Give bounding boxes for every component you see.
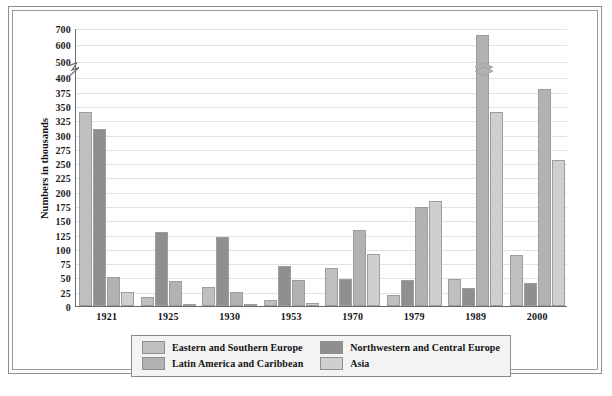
y-axis-tick-label: 25 [61,287,71,298]
legend-item-latin-america-caribbean[interactable]: Latin America and Caribbean [142,357,316,370]
y-axis-title-label: Numbers in thousands [39,118,50,219]
legend-swatch-icon [320,357,343,370]
x-axis-group-label: 1925 [138,311,200,322]
x-axis-group-label: 1989 [445,311,507,322]
legend-item-label: Eastern and Southern Europe [172,342,303,353]
bar-group: 1979 [384,29,446,306]
legend-item-label: Northwestern and Central Europe [350,342,500,353]
bar[interactable] [462,288,475,306]
y-axis-tick-label: 325 [55,116,71,127]
bar[interactable] [216,237,229,306]
bar[interactable] [401,280,414,306]
x-axis-group-label: 2000 [507,311,569,322]
bar[interactable] [169,281,182,306]
bar[interactable] [79,112,92,306]
bar[interactable] [183,304,196,306]
figure-frame-inner: Numbers in thousands 0255075100125150175… [12,10,598,370]
y-axis-tick-label: 400 [55,73,71,84]
x-axis-group-label: 1970 [322,311,384,322]
bar[interactable] [524,283,537,306]
bar[interactable] [476,35,489,306]
x-axis-group-label: 1979 [384,311,446,322]
bar[interactable] [93,129,106,306]
bar[interactable] [429,201,442,306]
legend-item-label: Latin America and Caribbean [172,358,303,369]
bar[interactable] [538,89,551,306]
bar[interactable] [107,277,120,306]
bar[interactable] [244,304,257,306]
y-axis-tick-label: 300 [55,130,71,141]
y-axis-tick-label: 125 [55,230,71,241]
y-axis-tick-label: 250 [55,159,71,170]
x-axis-group-label: 1930 [199,311,261,322]
bar[interactable] [230,292,243,306]
bar[interactable] [121,292,134,306]
bar[interactable] [278,266,291,306]
legend-swatch-icon [142,341,165,354]
plot-area: 0255075100125150175200225250275300325350… [75,29,567,307]
y-axis-tick-label: 275 [55,144,71,155]
bar[interactable] [264,300,277,306]
y-axis-title: Numbers in thousands [37,29,51,307]
y-axis-tick-label: 500 [55,56,71,67]
bar-break-marker [475,62,493,75]
bar[interactable] [155,232,168,306]
bar-group: 1921 [76,29,138,306]
figure-frame: Numbers in thousands 0255075100125150175… [8,6,602,374]
y-axis-tick-label: 175 [55,202,71,213]
bar-group: 1989 [445,29,507,306]
y-axis-tick-label: 75 [61,259,71,270]
bar-group: 1930 [199,29,261,306]
bar-group: 1970 [322,29,384,306]
bar-group: 1925 [138,29,200,306]
y-axis-tick-label: 50 [61,273,71,284]
bar[interactable] [306,303,319,306]
y-axis-tick-label: 225 [55,173,71,184]
bar[interactable] [325,268,338,306]
bar[interactable] [202,287,215,306]
bar[interactable] [141,297,154,306]
bar-group: 2000 [507,29,569,306]
legend-swatch-icon [320,341,343,354]
gridline [76,307,567,308]
y-axis-tick-label: 200 [55,187,71,198]
bar[interactable] [552,160,565,306]
legend-swatch-icon [142,357,165,370]
bar[interactable] [448,279,461,306]
bar[interactable] [490,112,503,306]
legend-item-eastern-southern-europe[interactable]: Eastern and Southern Europe [142,341,316,354]
y-axis-tick-label: 350 [55,102,71,113]
bar[interactable] [415,207,428,306]
y-axis-tick-label: 0 [66,302,71,313]
y-axis-tick-label: 375 [55,87,71,98]
legend-item-northwestern-central-europe[interactable]: Northwestern and Central Europe [320,341,500,354]
legend-item-label: Asia [350,358,369,369]
bar[interactable] [339,279,352,306]
bar[interactable] [510,255,523,306]
bar[interactable] [292,280,305,306]
bar[interactable] [367,254,380,306]
x-axis-group-label: 1953 [261,311,323,322]
bar-group: 1953 [261,29,323,306]
chart-legend: Eastern and Southern EuropeNorthwestern … [131,335,511,377]
y-axis-tick-label: 700 [55,24,71,35]
y-axis-tick-label: 100 [55,244,71,255]
y-axis-tick-label: 600 [55,40,71,51]
y-axis-tick-label: 150 [55,216,71,227]
legend-item-asia[interactable]: Asia [320,357,500,370]
bar[interactable] [387,295,400,306]
bar[interactable] [353,230,366,306]
x-axis-group-label: 1921 [76,311,138,322]
